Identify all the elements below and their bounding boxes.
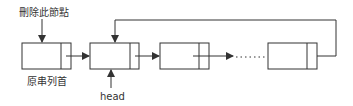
original-head-label: 原串列首 [27, 75, 67, 87]
linked-list-diagram: 刪除此節點 原串列首 head [0, 0, 353, 106]
node-4 [268, 43, 317, 69]
node-1 [22, 43, 71, 69]
diagram-svg: 刪除此節點 原串列首 head [0, 0, 353, 106]
loop-back-arrow [115, 20, 336, 56]
head-label: head [100, 91, 125, 102]
delete-node-label: 刪除此節點 [19, 6, 69, 18]
node-2 [90, 43, 139, 69]
